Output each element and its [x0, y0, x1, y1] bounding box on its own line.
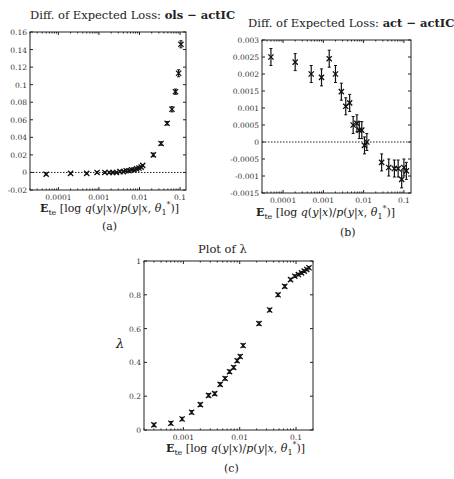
x-tick-label: 0.1: [290, 433, 302, 440]
data-point: [293, 54, 298, 71]
y-tick-label: 0.14: [10, 46, 27, 55]
data-point: [169, 107, 174, 112]
data-point: [84, 171, 89, 176]
y-tick-label: 0: [136, 426, 141, 435]
y-tick-label: 0.1: [15, 81, 27, 90]
data-point: [282, 284, 287, 289]
y-tick-label: 0.08: [10, 98, 27, 107]
data-point: [267, 307, 272, 312]
data-point: [309, 66, 314, 83]
chart-c-xlabel: Ete [log q(y|x)/p(y|x, θ1*)]: [166, 440, 305, 457]
chart-c-caption: (c): [224, 462, 239, 475]
chart-b-caption: (b): [340, 226, 356, 239]
data-point: [212, 391, 217, 396]
y-tick-label: 0.04: [10, 133, 27, 142]
data-point: [327, 50, 332, 67]
chart-a-plot: -0.0200.020.040.060.080.10.120.140.160.0…: [0, 0, 210, 210]
y-tick-label: -0.001: [235, 172, 259, 181]
y-tick-label: 0.2: [129, 392, 141, 401]
y-tick-label: 0.16: [10, 28, 27, 37]
y-tick-label: 0.6: [129, 325, 141, 334]
data-point: [168, 421, 173, 426]
chart-a-caption: (a): [102, 220, 117, 233]
data-point: [339, 83, 344, 100]
y-tick-label: 0.02: [10, 151, 27, 160]
data-point: [319, 69, 324, 86]
plot-frame: [30, 32, 186, 190]
data-point: [176, 70, 181, 77]
y-tick-label: -0.0005: [230, 155, 259, 164]
y-tick-label: 0.0005: [233, 121, 259, 130]
x-tick-label: 0.1: [398, 196, 410, 205]
chart-c-plot: 00.20.40.60.810.0010.010.1: [100, 240, 330, 440]
y-tick-label: 0.8: [129, 291, 141, 300]
data-point: [206, 393, 211, 398]
data-point: [231, 365, 236, 370]
chart-a-xlabel: Ete [log q(y|x)/p(y|x, θ1*)]: [40, 200, 179, 217]
data-point: [386, 159, 391, 176]
data-point: [275, 292, 280, 297]
data-point: [238, 354, 243, 359]
data-point: [158, 141, 163, 146]
data-point: [222, 376, 227, 381]
data-point: [165, 121, 170, 126]
data-point: [151, 422, 156, 427]
y-tick-label: -0.02: [8, 186, 27, 195]
plot-frame: [144, 261, 313, 430]
data-point: [235, 358, 240, 363]
y-tick-label: 0.4: [129, 358, 141, 367]
data-point: [189, 410, 194, 415]
y-tick-label: 0.001: [238, 104, 259, 113]
data-point: [396, 160, 401, 177]
data-point: [173, 89, 178, 94]
chart-c-ylabel: λ: [116, 336, 124, 351]
data-point: [198, 402, 203, 407]
y-tick-label: 0: [254, 138, 259, 147]
y-tick-label: -0.0015: [230, 189, 259, 198]
data-point: [180, 416, 185, 421]
y-tick-label: 0.003: [238, 36, 260, 45]
y-tick-label: 0.002: [238, 70, 260, 79]
data-point: [268, 49, 273, 66]
y-tick-label: 0: [22, 168, 27, 177]
y-tick-label: 0.06: [10, 116, 27, 125]
data-point: [68, 171, 73, 176]
data-point: [178, 41, 183, 48]
data-point: [333, 66, 338, 83]
y-tick-label: 0.12: [10, 63, 27, 72]
y-tick-label: 0.0015: [233, 87, 259, 96]
chart-b-xlabel: Ete [log q(y|x)/p(y|x, θ1*)]: [256, 204, 395, 221]
data-point: [241, 343, 246, 348]
data-point: [94, 170, 99, 175]
x-tick-label: 0.01: [231, 433, 248, 440]
data-point: [404, 162, 409, 179]
x-tick-label: 0.001: [173, 433, 194, 440]
y-tick-label: 0.0025: [233, 53, 259, 62]
data-point: [379, 154, 384, 171]
chart-b-plot: -0.0015-0.001-0.000500.00050.0010.00150.…: [210, 0, 423, 210]
data-point: [392, 160, 397, 177]
y-tick-label: 1: [136, 257, 141, 266]
data-point: [256, 321, 261, 326]
data-point: [151, 152, 156, 157]
data-point: [218, 382, 223, 387]
